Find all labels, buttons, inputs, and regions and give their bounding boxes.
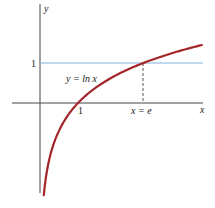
ln-graph: y x 1 1 x = e y = ln x [0, 0, 215, 208]
y-tick-1: 1 [31, 58, 36, 69]
x-axis-label: x [199, 104, 205, 115]
y-axis-label: y [43, 3, 49, 14]
ln-curve [44, 45, 202, 195]
x-tick-e: x = e [130, 105, 152, 116]
x-tick-1: 1 [78, 105, 83, 116]
curve-label: y = ln x [65, 73, 97, 84]
